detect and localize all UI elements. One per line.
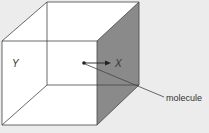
cube-diagram: Y X molecule [0, 0, 209, 133]
label-molecule: molecule [166, 93, 202, 103]
label-x: X [114, 58, 122, 69]
cube-svg: Y X molecule [0, 0, 209, 133]
